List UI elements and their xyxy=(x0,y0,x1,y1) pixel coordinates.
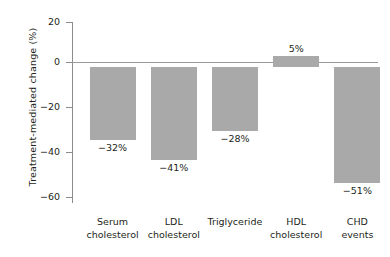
bar-chart: Treatment-mediated change (%) 20 0 −20 −… xyxy=(0,0,390,257)
x-category-line2: events xyxy=(320,229,390,242)
bar-value-chd-events: −51% xyxy=(326,185,388,196)
bar-serum-cholesterol[interactable] xyxy=(90,67,136,139)
y-tick-label-m20: −20 xyxy=(20,102,60,112)
y-tick-mark-0 xyxy=(66,62,72,63)
y-tick-label-m40: −40 xyxy=(20,147,60,157)
y-tick-label-20: 20 xyxy=(20,17,60,27)
bar-value-hdl-cholesterol: 5% xyxy=(265,43,327,54)
x-category-line2: cholesterol xyxy=(137,229,211,242)
bar-value-triglyceride: −28% xyxy=(204,133,266,144)
y-tick-mark-m40 xyxy=(66,152,72,153)
y-tick-label-m60: −60 xyxy=(20,192,60,202)
bar-triglyceride[interactable] xyxy=(212,67,258,130)
x-category-line1: CHD xyxy=(320,216,390,229)
y-tick-mark-20 xyxy=(66,22,72,23)
y-tick-mark-m60 xyxy=(66,197,72,198)
x-category-chd-events: CHD events xyxy=(320,216,390,241)
bar-hdl-cholesterol[interactable] xyxy=(273,56,319,67)
y-axis-line xyxy=(72,22,73,203)
bar-ldl-cholesterol[interactable] xyxy=(151,67,197,160)
bar-chd-events[interactable] xyxy=(334,67,380,182)
y-tick-label-0: 0 xyxy=(20,57,60,67)
y-tick-mark-m20 xyxy=(66,107,72,108)
bar-value-serum-cholesterol: −32% xyxy=(82,142,144,153)
zero-baseline xyxy=(72,62,378,63)
bar-value-ldl-cholesterol: −41% xyxy=(143,162,205,173)
